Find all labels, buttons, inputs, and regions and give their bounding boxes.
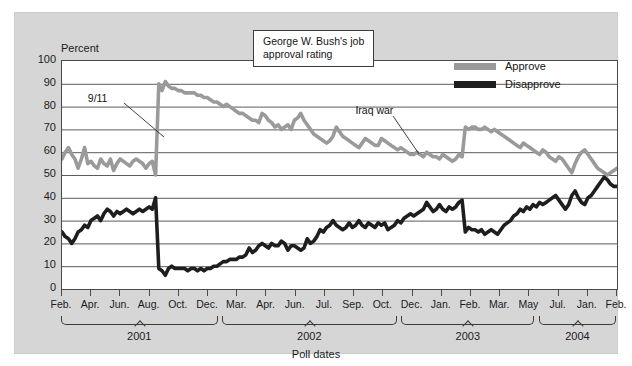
x-tick-label-3: Aug. xyxy=(138,298,160,310)
figure-container: Percent 0102030405060708090100 Feb.Apr.J… xyxy=(0,0,632,366)
year-label-2003: 2003 xyxy=(456,330,480,342)
chart-title-line-1: George W. Bush's job xyxy=(263,35,364,48)
x-tick-label-10: Sep. xyxy=(342,298,364,310)
x-tick-label-8: Jun. xyxy=(285,298,305,310)
x-tick-mark-4 xyxy=(178,290,179,296)
legend-swatch-disapprove xyxy=(454,81,496,88)
x-tick-label-4: Oct. xyxy=(168,298,187,310)
legend-item-disapprove: Disapprove xyxy=(454,78,561,90)
y-tick-10: 10 xyxy=(18,259,56,270)
x-tick-mark-3 xyxy=(149,290,150,296)
x-tick-mark-7 xyxy=(265,290,266,296)
year-label-2001: 2001 xyxy=(127,330,151,342)
legend-swatch-approve xyxy=(454,63,496,70)
y-axis-title: Percent xyxy=(61,42,99,54)
legend-label-approve: Approve xyxy=(505,60,546,72)
x-tick-label-18: Jan. xyxy=(577,298,597,310)
x-tick-mark-17 xyxy=(558,290,559,296)
annotation-9-11-label: 9/11 xyxy=(88,92,108,104)
x-tick-mark-16 xyxy=(528,290,529,296)
y-tick-50: 50 xyxy=(18,168,56,179)
annotation-iraq-war-label: Iraq war xyxy=(355,104,393,116)
year-brace-2002 xyxy=(222,316,397,325)
x-tick-mark-19 xyxy=(616,290,617,296)
x-tick-label-13: Jan. xyxy=(431,298,451,310)
year-brace-2004 xyxy=(539,316,616,325)
chart-card: Percent 0102030405060708090100 Feb.Apr.J… xyxy=(14,12,618,354)
y-tick-40: 40 xyxy=(18,191,56,202)
x-tick-mark-13 xyxy=(441,290,442,296)
year-label-2002: 2002 xyxy=(297,330,321,342)
y-tick-80: 80 xyxy=(18,100,56,111)
y-tick-90: 90 xyxy=(18,77,56,88)
x-tick-label-14: Feb. xyxy=(459,298,480,310)
x-tick-mark-5 xyxy=(207,290,208,296)
annotation-9-11-leader xyxy=(122,101,172,141)
x-tick-label-0: Feb. xyxy=(50,298,71,310)
y-tick-70: 70 xyxy=(18,122,56,133)
legend-item-approve: Approve xyxy=(454,60,561,72)
y-tick-60: 60 xyxy=(18,145,56,156)
x-tick-mark-0 xyxy=(61,290,62,296)
x-tick-label-12: Dec. xyxy=(401,298,423,310)
x-tick-label-15: Mar. xyxy=(489,298,509,310)
annotation-iraq-war-leader xyxy=(391,114,427,158)
chart-title-box: George W. Bush's job approval rating xyxy=(253,30,374,67)
x-tick-mark-11 xyxy=(382,290,383,296)
year-label-2004: 2004 xyxy=(565,330,589,342)
x-tick-label-6: Mar. xyxy=(226,298,246,310)
x-tick-mark-18 xyxy=(587,290,588,296)
x-tick-label-16: May xyxy=(518,298,538,310)
y-tick-0: 0 xyxy=(18,282,56,293)
y-tick-20: 20 xyxy=(18,236,56,247)
x-tick-label-11: Oct. xyxy=(373,298,392,310)
x-tick-mark-6 xyxy=(236,290,237,296)
x-tick-label-1: Apr. xyxy=(81,298,100,310)
chart-title-line-2: approval rating xyxy=(263,48,364,61)
year-group-band: 2001200220032004 xyxy=(61,316,618,350)
x-tick-label-2: Jun. xyxy=(109,298,129,310)
y-tick-100: 100 xyxy=(18,54,56,65)
x-tick-mark-1 xyxy=(90,290,91,296)
annotation-iraq-war: Iraq war xyxy=(355,104,393,116)
x-tick-mark-10 xyxy=(353,290,354,296)
x-axis-title: Poll dates xyxy=(14,348,618,360)
year-brace-2003 xyxy=(401,316,534,325)
x-tick-mark-14 xyxy=(470,290,471,296)
x-tick-label-7: Apr. xyxy=(256,298,275,310)
legend-label-disapprove: Disapprove xyxy=(505,78,561,90)
x-axis: Feb.Apr.Jun.Aug.Oct.Dec.Mar.Apr.Jun.Jul.… xyxy=(61,290,618,312)
x-tick-mark-12 xyxy=(412,290,413,296)
annotation-9-11: 9/11 xyxy=(88,92,108,104)
x-tick-mark-8 xyxy=(295,290,296,296)
x-tick-label-9: Jul. xyxy=(316,298,332,310)
legend: Approve Disapprove xyxy=(454,60,561,96)
x-tick-mark-9 xyxy=(324,290,325,296)
x-tick-mark-15 xyxy=(499,290,500,296)
x-tick-label-19: Feb. xyxy=(605,298,626,310)
y-tick-30: 30 xyxy=(18,214,56,225)
x-tick-label-5: Dec. xyxy=(196,298,218,310)
x-tick-label-17: Jul. xyxy=(549,298,565,310)
year-brace-2001 xyxy=(61,316,218,325)
x-tick-mark-2 xyxy=(119,290,120,296)
